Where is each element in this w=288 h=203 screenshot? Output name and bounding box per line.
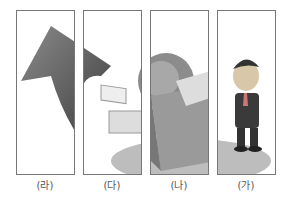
label-ra: (라): [16, 177, 74, 192]
label-na: (나): [150, 177, 208, 192]
label-da: (다): [83, 177, 141, 192]
panel-na: [150, 10, 209, 175]
panel-ga: [217, 10, 276, 175]
arrow-globe-illustration: [83, 11, 142, 174]
label-ga: (가): [217, 177, 275, 192]
panel-ra: [16, 10, 75, 175]
panel-da: [83, 10, 142, 175]
businessman-illustration: [217, 11, 276, 174]
box-globe-illustration: [150, 11, 209, 174]
arrow-illustration: [16, 11, 75, 174]
